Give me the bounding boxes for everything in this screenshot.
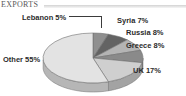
slice-label-lebanon: Lebanon 5% (22, 13, 66, 22)
leader-line-lebanon (69, 16, 102, 17)
slice-label-uk: UK 17% (133, 66, 161, 75)
page-title: EXPORTS (1, 0, 38, 10)
slice-label-russia: Russia 8% (126, 28, 164, 37)
horizontal-rule-icon (44, 5, 186, 8)
slice-label-syria: Syria 7% (117, 16, 148, 25)
slice-label-other: Other 55% (3, 55, 40, 64)
slice-label-greece: Greece 8% (126, 41, 164, 50)
pie-chart-svg (0, 11, 186, 96)
leader-line-lebanon-drop (101, 16, 102, 28)
exports-pie-chart-figure: EXPORTS Lebanon 5% Syria 7% Russia 8% Gr… (0, 0, 186, 96)
pie-chart: Lebanon 5% Syria 7% Russia 8% Greece 8% … (0, 11, 186, 96)
